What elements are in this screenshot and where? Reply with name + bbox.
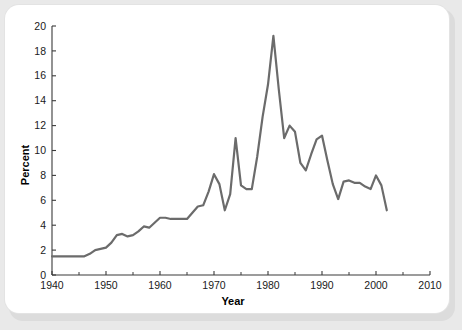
x-tick-label: 1990 bbox=[310, 279, 334, 291]
y-tick-label: 4 bbox=[40, 219, 46, 231]
x-tick-label: 1940 bbox=[40, 279, 64, 291]
axis-tick-marks bbox=[52, 26, 430, 275]
y-tick-label: 12 bbox=[34, 119, 46, 131]
axis-lines bbox=[52, 26, 430, 275]
y-axis-tick-labels: 02468101214161820 bbox=[34, 20, 46, 281]
y-tick-label: 18 bbox=[34, 45, 46, 57]
x-tick-label: 2010 bbox=[418, 279, 442, 291]
x-tick-label: 2000 bbox=[364, 279, 388, 291]
line-chart-svg: 02468101214161820 1940195019601970198019… bbox=[5, 5, 449, 313]
data-series-line bbox=[52, 36, 387, 256]
y-tick-label: 16 bbox=[34, 69, 46, 81]
y-tick-label: 2 bbox=[40, 244, 46, 256]
x-tick-label: 1960 bbox=[148, 279, 172, 291]
figure-card: 02468101214161820 1940195019601970198019… bbox=[5, 5, 449, 313]
y-axis-title: Percent bbox=[19, 144, 31, 185]
x-tick-label: 1950 bbox=[94, 279, 118, 291]
y-tick-label: 14 bbox=[34, 94, 46, 106]
x-axis-title: Year bbox=[221, 295, 245, 307]
y-tick-label: 6 bbox=[40, 194, 46, 206]
x-tick-label: 1970 bbox=[202, 279, 226, 291]
chart-plot-area: 02468101214161820 1940195019601970198019… bbox=[5, 5, 449, 313]
y-tick-label: 10 bbox=[34, 144, 46, 156]
y-tick-label: 20 bbox=[34, 20, 46, 32]
y-tick-label: 8 bbox=[40, 169, 46, 181]
x-axis-tick-labels: 19401950196019701980199020002010 bbox=[40, 279, 442, 291]
x-tick-label: 1980 bbox=[256, 279, 280, 291]
